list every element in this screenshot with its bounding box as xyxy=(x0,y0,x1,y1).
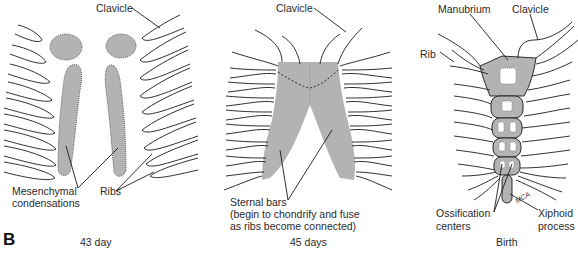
label-centers: centers xyxy=(436,220,470,232)
ribs-birth-left xyxy=(438,34,500,200)
label-xiphoid: Xiphoid xyxy=(538,207,573,219)
leader-clavicle-1 xyxy=(132,8,160,28)
label-ossification: Ossification xyxy=(436,207,490,219)
stage-45-days-drawing xyxy=(224,8,392,200)
leader-clavicle-2 xyxy=(314,8,346,32)
panel-letter: B xyxy=(3,230,15,250)
label-sternal-bars: Sternal bars xyxy=(230,196,287,208)
label-mesenchymal: Mesenchymal xyxy=(12,185,77,197)
label-clavicle-birth: Clavicle xyxy=(512,3,549,15)
mesenchymal-condensations xyxy=(50,34,136,176)
label-clavicle-45: Clavicle xyxy=(276,2,313,14)
stage-43-day-drawing xyxy=(4,8,198,191)
label-condensations: condensations xyxy=(12,197,80,209)
caption-birth: Birth xyxy=(496,236,518,248)
leader-rib xyxy=(440,52,454,62)
label-process: process xyxy=(538,220,575,232)
label-ribs: Ribs xyxy=(100,185,121,197)
leader-clavicle-3 xyxy=(530,14,538,40)
stage-birth-drawing: MCA xyxy=(438,14,578,212)
left-ribs xyxy=(4,25,56,180)
caption-43-day: 43 day xyxy=(80,236,112,248)
label-sternal-bars-note-1: (begin to chondrify and fuse xyxy=(230,208,360,220)
label-manubrium: Manubrium xyxy=(438,3,491,15)
label-clavicle-43: Clavicle xyxy=(96,2,133,14)
label-sternal-bars-note-2: as ribs become connected) xyxy=(230,220,356,232)
label-rib: Rib xyxy=(420,48,436,60)
sternal-bars xyxy=(262,62,355,180)
right-ribs xyxy=(140,15,198,178)
caption-45-days: 45 days xyxy=(290,236,327,248)
leader-manubrium xyxy=(470,14,508,60)
leader-condensations xyxy=(66,146,118,188)
